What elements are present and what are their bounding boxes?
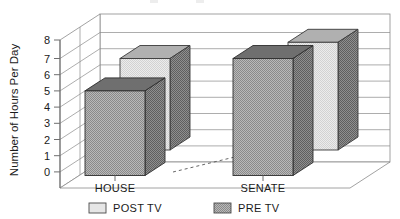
bar-side-face <box>145 78 165 176</box>
y-tick-3: 3 <box>44 117 50 129</box>
legend-label-pre-tv: PRE TV <box>238 202 280 214</box>
y-tick-1: 1 <box>44 150 50 162</box>
legend-label-post-tv: POST TV <box>113 202 162 214</box>
chart-canvas: 8 7 6 5 4 3 2 1 0 Number of Hours Per Da… <box>0 0 400 219</box>
cropped-title-artifact <box>150 0 204 3</box>
x-category-senate: SENATE <box>241 182 286 194</box>
legend-swatch-pre-tv <box>214 203 231 213</box>
x-category-house: HOUSE <box>95 182 136 194</box>
bar-house-pre-tv <box>85 78 165 176</box>
legend: POST TV PRE TV <box>89 202 280 214</box>
legend-item-post-tv[interactable]: POST TV <box>89 202 162 214</box>
y-tick-7: 7 <box>44 53 50 65</box>
y-tick-5: 5 <box>44 85 50 97</box>
bar-senate-pre-tv <box>233 46 313 176</box>
y-axis-title: Number of Hours Per Day <box>8 44 20 177</box>
legend-swatch-post-tv <box>89 203 106 213</box>
bar-front-face <box>233 59 293 176</box>
y-tick-6: 6 <box>44 69 50 81</box>
y-tick-0: 0 <box>44 166 50 178</box>
y-tick-4: 4 <box>44 101 50 113</box>
bar-side-face <box>170 46 190 151</box>
y-tick-2: 2 <box>44 134 50 146</box>
bar-side-face <box>338 29 358 150</box>
y-axis: 8 7 6 5 4 3 2 1 0 Number of Hours Per Da… <box>8 34 60 188</box>
bar-side-face <box>293 46 313 176</box>
bar-front-face <box>85 91 145 176</box>
legend-item-pre-tv[interactable]: PRE TV <box>214 202 280 214</box>
y-axis-ticks <box>54 40 60 172</box>
bar-chart-3d: 8 7 6 5 4 3 2 1 0 Number of Hours Per Da… <box>0 0 400 219</box>
y-tick-8: 8 <box>44 34 50 46</box>
